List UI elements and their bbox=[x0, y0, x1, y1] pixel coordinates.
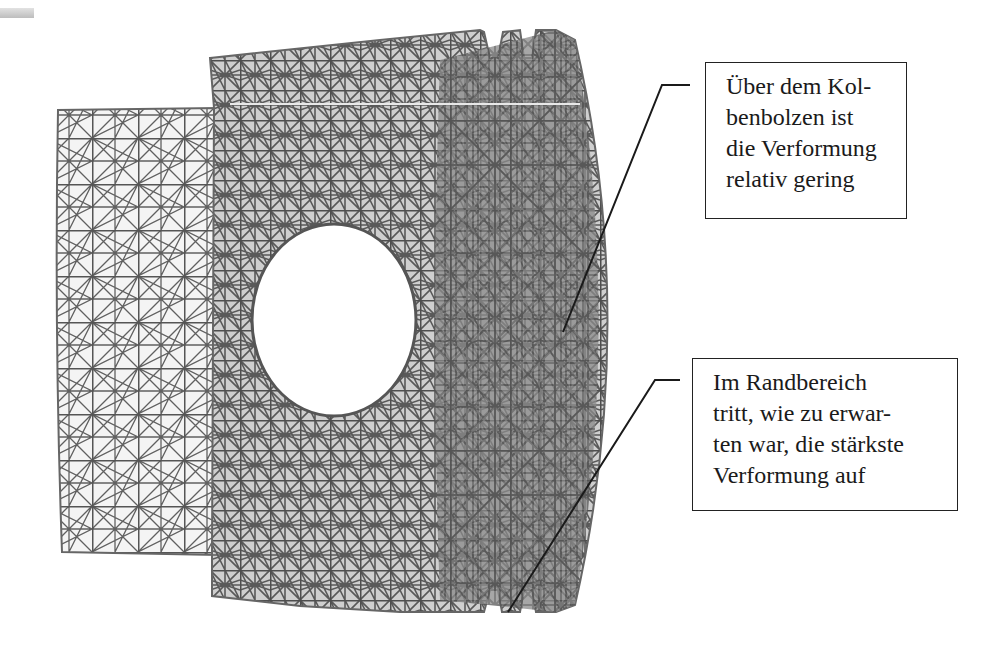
callout-1-line-4: relativ gering bbox=[726, 164, 906, 195]
callout-1-line-2: benbolzen ist bbox=[726, 102, 906, 133]
callout-2-line-2: tritt, wie zu erwar- bbox=[713, 398, 957, 429]
piston-fe-mesh-figure: Über dem Kol- benbolzen ist die Verformu… bbox=[0, 0, 991, 646]
callout-2-line-1: Im Randbereich bbox=[713, 367, 957, 398]
callout-box-edge-region: Im Randbereich tritt, wie zu erwar- ten … bbox=[692, 358, 958, 511]
callout-1-line-3: die Verformung bbox=[726, 133, 906, 164]
mesh-dense-band bbox=[435, 30, 599, 612]
callout-1-line-1: Über dem Kol- bbox=[726, 71, 906, 102]
callout-2-line-4: Verformung auf bbox=[713, 460, 957, 491]
callout-2-line-3: ten war, die stärkste bbox=[713, 429, 957, 460]
callout-box-pin-region: Über dem Kol- benbolzen ist die Verformu… bbox=[705, 62, 907, 219]
mesh-left-block bbox=[57, 108, 218, 555]
pin-bore-hole bbox=[252, 224, 416, 416]
